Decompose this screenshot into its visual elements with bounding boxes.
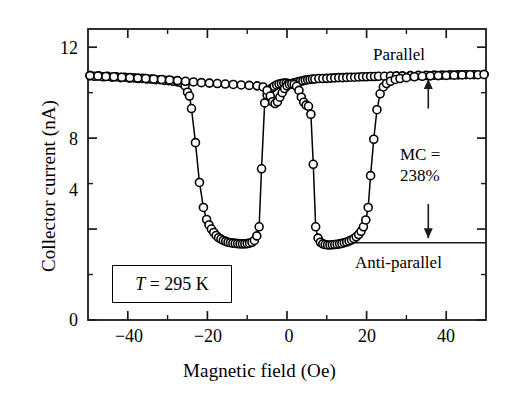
- annotation-mc-line2: 238%: [400, 165, 440, 186]
- temperature-box: T = 295 K: [112, 265, 232, 303]
- x-tick-label-0: 0: [259, 326, 319, 347]
- y-axis-title: Collector current (nA): [38, 41, 60, 331]
- x-tick-label-minus20: −20: [178, 326, 238, 347]
- figure-container: 0 4 8 12 −40 −20 0 20 40 Magnetic field …: [0, 0, 519, 403]
- annotation-mc-line1: MC =: [400, 144, 440, 165]
- annotation-antiparallel: Anti-parallel: [355, 253, 442, 273]
- temperature-value: = 295 K: [145, 274, 209, 294]
- x-tick-label-40: 40: [416, 326, 476, 347]
- x-tick-label-20: 20: [337, 326, 397, 347]
- x-axis-title: Magnetic field (Oe): [0, 360, 519, 382]
- annotation-mc: MC = 238%: [400, 144, 440, 187]
- temperature-label: T = 295 K: [135, 274, 209, 295]
- temperature-symbol: T: [135, 274, 145, 294]
- x-tick-label-minus40: −40: [99, 326, 159, 347]
- annotation-parallel: Parallel: [373, 45, 425, 65]
